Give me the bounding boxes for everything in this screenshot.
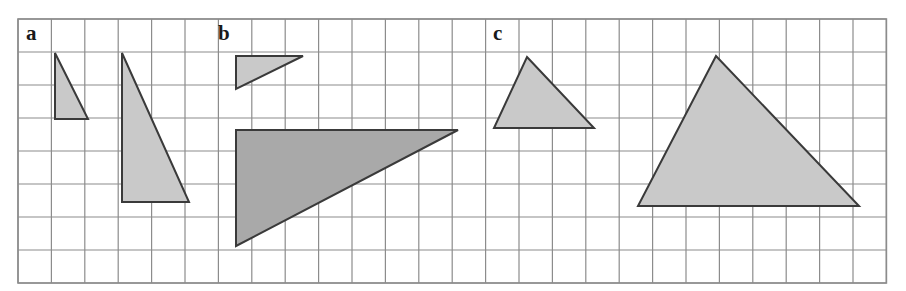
panel-label-b: b — [218, 21, 230, 45]
panel-label-a: a — [26, 21, 37, 45]
figure-container: abc — [0, 0, 906, 291]
grid-figure-svg: abc — [0, 0, 906, 291]
panel-label-c: c — [493, 21, 502, 45]
